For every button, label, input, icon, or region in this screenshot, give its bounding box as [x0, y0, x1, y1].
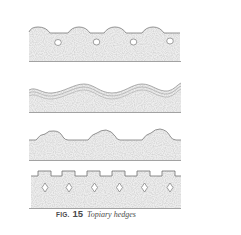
hedge-crenellated	[29, 171, 181, 209]
hedge-arched	[29, 129, 181, 161]
figure-caption: FIG. 15 Topiary hedges	[56, 208, 186, 219]
figure-label: FIG.	[56, 211, 69, 218]
figure-number: 15	[72, 208, 83, 219]
topiary-hedges-illustration	[0, 0, 241, 235]
hedge-scalloped	[29, 27, 181, 62]
hedge-wavy	[29, 83, 181, 113]
figure-title: Topiary hedges	[87, 210, 136, 219]
